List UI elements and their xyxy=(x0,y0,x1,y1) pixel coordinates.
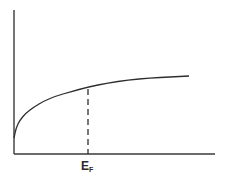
chart: EF xyxy=(0,0,226,182)
curve-line xyxy=(14,76,189,138)
fermi-label-main: E xyxy=(81,159,89,173)
fermi-energy-label: EF xyxy=(81,159,94,173)
fermi-label-subscript: F xyxy=(89,166,94,173)
